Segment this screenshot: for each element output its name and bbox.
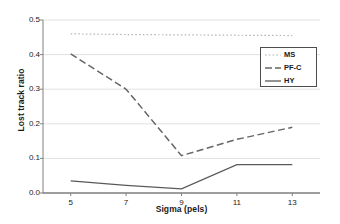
gridlines	[43, 20, 320, 193]
legend-item-pfc: PF-C	[261, 62, 316, 74]
legend-label-pfc: PF-C	[284, 63, 302, 73]
plot-area	[0, 0, 340, 224]
axis-lines	[43, 20, 320, 193]
legend-swatch-solid-icon	[264, 76, 282, 86]
axis-ticks	[40, 20, 292, 196]
legend-item-ms: MS	[261, 49, 316, 61]
legend-swatch-dashed-icon	[264, 63, 282, 73]
chart-figure: Lost track ratio 0.00.10.20.30.40.5 5791…	[0, 0, 340, 224]
legend-swatch-dotted-icon	[264, 50, 282, 60]
series-line-ms	[71, 34, 293, 36]
legend-label-ms: MS	[284, 50, 295, 60]
series-line-hy	[71, 165, 293, 189]
legend-item-hy: HY	[261, 75, 316, 87]
legend: MS PF-C HY	[260, 47, 317, 87]
legend-label-hy: HY	[284, 76, 294, 86]
